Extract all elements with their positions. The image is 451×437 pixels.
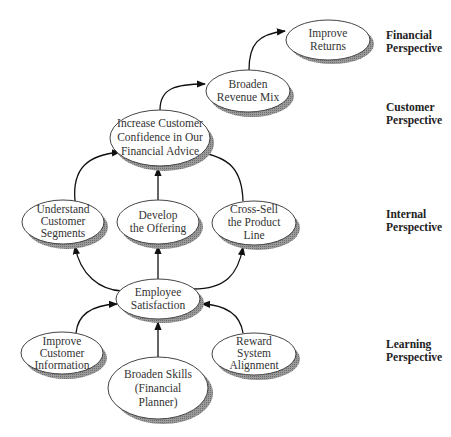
node-improve-customer-info: Improve Customer Information (21, 332, 107, 379)
node-broaden-revenue-mix: Broaden Revenue Mix (206, 70, 294, 117)
edge-employee-to-crosssell (193, 247, 243, 289)
perspective-label-line: Perspective (386, 351, 442, 364)
node-text-line: Confidence in Our (117, 131, 203, 143)
node-text-line: Planner) (139, 396, 178, 409)
node-understand-segments: Understand Customer Segments (22, 200, 108, 249)
node-text-line: Customer (40, 347, 85, 359)
perspective-label-line: Perspective (386, 42, 442, 55)
node-text-line: Develop (139, 209, 178, 222)
node-text-line: Segments (41, 227, 86, 240)
node-text-line: Returns (310, 40, 346, 52)
node-text-line: Line (243, 229, 264, 241)
node-text-line: Broaden Skills (124, 368, 193, 380)
node-develop-offering: Develop the Offering (117, 200, 203, 249)
learning-perspective-label: Learning Perspective (386, 338, 442, 364)
node-text-line: Improve (309, 27, 348, 40)
node-text-line: Increase Customer (117, 117, 203, 129)
edge-crosssell-to-confidence (198, 152, 243, 201)
node-employee-satisfaction: Employee Satisfaction (116, 279, 204, 323)
node-text-line: Customer (41, 215, 86, 227)
edge-reward-to-employee (202, 304, 243, 333)
node-cross-sell: Cross-Sell the Product Line (212, 201, 300, 250)
node-increase-confidence: Increase Customer Confidence in Our Fina… (110, 110, 214, 171)
node-text-line: the Offering (130, 222, 187, 235)
node-text-line: Cross-Sell (230, 203, 278, 215)
customer-perspective-label: Customer Perspective (386, 101, 442, 127)
node-text-line: Reward (236, 335, 272, 347)
node-text-line: Financial Advice (121, 145, 199, 157)
edge-revenue-to-returns (249, 31, 285, 70)
node-broaden-skills: Broaden Skills (Financial Planner) (108, 357, 213, 424)
financial-perspective-label: Financial Perspective (386, 29, 442, 55)
perspective-label-line: Perspective (386, 114, 442, 127)
strategy-map-diagram: Improve Returns Broaden Revenue Mix Incr… (0, 0, 451, 437)
perspective-label-line: Internal (386, 208, 442, 221)
node-improve-returns: Improve Returns (286, 20, 374, 64)
node-text-line: (Financial (135, 382, 182, 395)
node-text-line: Employee (135, 286, 182, 299)
node-text-line: Satisfaction (131, 299, 186, 311)
perspective-label-line: Customer (386, 101, 442, 114)
edge-segments-to-confidence (75, 152, 120, 201)
edge-confidence-to-revenue (160, 84, 205, 110)
node-text-line: Understand (36, 203, 89, 215)
node-text-line: Broaden (229, 78, 268, 90)
node-text-line: Alignment (229, 359, 279, 372)
edge-custinfo-to-employee (76, 304, 117, 333)
perspective-label-line: Perspective (386, 221, 442, 234)
node-text-line: Revenue Mix (217, 91, 280, 103)
perspective-label-line: Financial (386, 29, 442, 42)
node-text-line: the Product (228, 216, 282, 228)
internal-perspective-label: Internal Perspective (386, 208, 442, 234)
edge-employee-to-segments (75, 246, 122, 291)
perspective-label-line: Learning (386, 338, 442, 351)
node-reward-alignment: Reward System Alignment (212, 333, 300, 380)
node-text-line: Information (35, 359, 90, 371)
